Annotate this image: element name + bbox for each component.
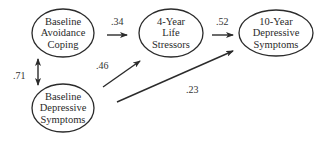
coefficient-stressors-to-outcome: .52 [216, 17, 229, 27]
arrow-baseline_dep_to_outcome [117, 51, 233, 102]
node-label-line: Depressive [40, 102, 87, 114]
node-10-year-depressive-symptoms: 10-Year Depressive Symptoms [239, 10, 313, 56]
node-label-line: 10-Year [259, 16, 292, 28]
coefficient-baseline-dep-to-outcome: .23 [186, 85, 199, 95]
node-label-line: Coping [48, 39, 79, 51]
coefficient-baseline-dep-to-stressors: .46 [96, 61, 109, 71]
arrow-baseline_dep_to_stressors [103, 61, 140, 87]
node-label-line: Symptoms [254, 39, 299, 51]
node-label-line: Symptoms [41, 114, 86, 126]
node-label-line: Life [162, 27, 180, 39]
node-baseline-avoidance-coping: Baseline Avoidance Coping [32, 9, 94, 57]
coefficient-avoidance-with-baseline-dep: .71 [13, 71, 26, 81]
node-label-line: Depressive [253, 27, 300, 39]
node-baseline-depressive-symptoms: Baseline Depressive Symptoms [32, 84, 94, 132]
node-label-line: Baseline [45, 91, 81, 103]
coefficient-avoidance-to-stressors: .34 [111, 17, 124, 27]
node-4-year-life-stressors: 4-Year Life Stressors [139, 9, 203, 57]
node-label-line: Stressors [152, 39, 190, 51]
node-label-line: Avoidance [41, 27, 86, 39]
node-label-line: Baseline [45, 16, 81, 28]
node-label-line: 4-Year [157, 16, 185, 28]
